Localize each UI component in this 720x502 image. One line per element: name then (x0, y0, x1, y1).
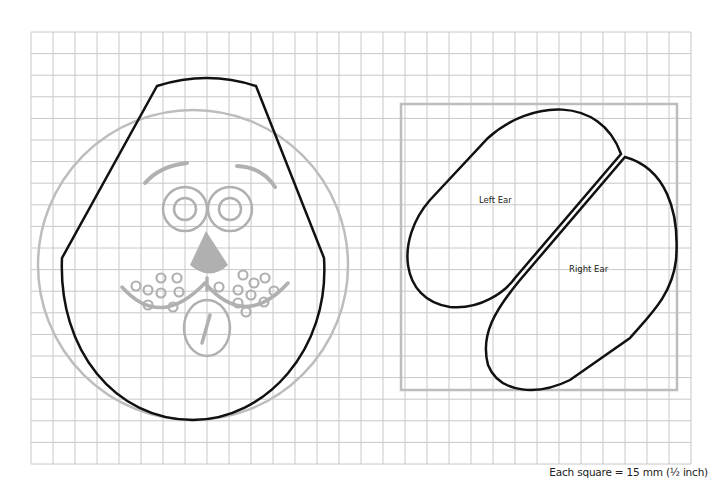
head-outline (62, 78, 325, 420)
nose (190, 231, 228, 274)
left-ear-label: Left Ear (479, 195, 512, 205)
right-ear-label: Right Ear (569, 264, 608, 274)
grid (31, 32, 691, 464)
left-eyebrow (145, 163, 187, 183)
right-eye-inner (219, 198, 241, 220)
scale-caption: Each square = 15 mm (½ inch) (549, 466, 708, 478)
left-ear-outline (407, 110, 621, 308)
ears-guide-square (401, 104, 677, 390)
right-eyebrow (237, 166, 275, 187)
whisker-dots (132, 271, 279, 317)
pattern-sheet (0, 0, 720, 502)
right-eye-outer (208, 187, 252, 231)
